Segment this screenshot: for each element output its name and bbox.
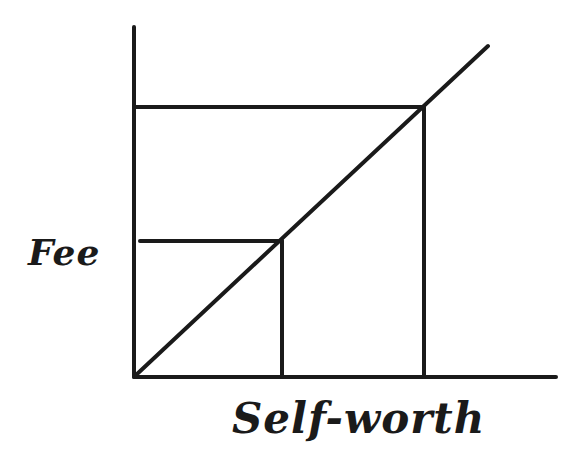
- x-axis-label: Self-worth: [232, 398, 485, 440]
- y-axis-label: Fee: [28, 234, 100, 270]
- diagonal-line: [136, 46, 488, 375]
